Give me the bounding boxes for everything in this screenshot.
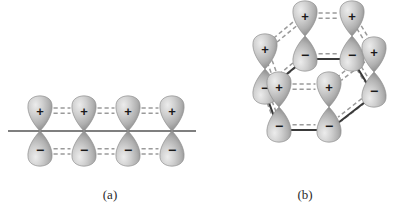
orbital-sign-positive: + (36, 104, 44, 119)
orbital-sign-positive: + (370, 45, 378, 60)
overlap-dash-line (357, 28, 365, 41)
orbital-b-1: +− (340, 1, 364, 71)
panel-captions: (a)(b) (103, 187, 313, 202)
figure-canvas: +−+−+−+− +−+−+−+−+−+− (a)(b) (0, 0, 396, 214)
caption-panel-a: (a) (103, 187, 117, 202)
overlap-dash-line (274, 22, 293, 38)
orbital-b-0: +− (293, 1, 317, 71)
orbital-sign-positive: + (168, 104, 176, 119)
pi-overlap-link-b-0 (319, 13, 339, 18)
pi-overlap-link-a-5 (142, 149, 159, 154)
pi-overlap-link-a-2 (142, 108, 159, 113)
pi-overlap-link-b-10 (338, 99, 365, 122)
pi-overlap-link-a-1 (98, 108, 115, 113)
orbital-sign-positive: + (301, 9, 309, 24)
orbital-sign-negative: − (168, 142, 176, 158)
orbital-sign-positive: + (80, 104, 88, 119)
orbital-sign-positive: + (325, 80, 333, 95)
panel-b: +−+−+−+−+−+− (253, 1, 386, 142)
pi-overlap-link-a-4 (98, 149, 115, 154)
orbital-sign-negative: − (370, 83, 378, 99)
orbital-sign-negative: − (124, 142, 132, 158)
panel-a: +−+−+−+− (8, 96, 196, 166)
orbital-diagram: +−+−+−+− +−+−+−+−+−+− (a)(b) (0, 0, 396, 214)
overlap-dash-line (272, 60, 277, 73)
orbital-sign-positive: + (124, 104, 132, 119)
orbital-b-5: +− (317, 72, 341, 142)
pi-overlap-link-b-1 (274, 22, 296, 42)
orbital-sign-negative: − (325, 118, 333, 134)
orbital-sign-negative: − (348, 47, 356, 63)
pi-overlap-link-a-3 (54, 149, 71, 154)
orbital-sign-negative: − (275, 118, 283, 134)
orbital-sign-negative: − (301, 47, 309, 63)
overlap-dash-line (357, 69, 365, 82)
orbital-sign-negative: − (80, 142, 88, 158)
pi-overlap-link-b-5 (293, 84, 316, 89)
orbital-sign-negative: − (36, 142, 44, 158)
orbital-sign-positive: + (275, 80, 283, 95)
orbital-b-3: +− (362, 37, 386, 107)
overlap-dash-line (277, 26, 296, 42)
orbital-sign-positive: + (261, 42, 269, 57)
orbital-sign-positive: + (348, 9, 356, 24)
pi-overlap-link-a-0 (54, 108, 71, 113)
caption-panel-b: (b) (297, 187, 312, 202)
